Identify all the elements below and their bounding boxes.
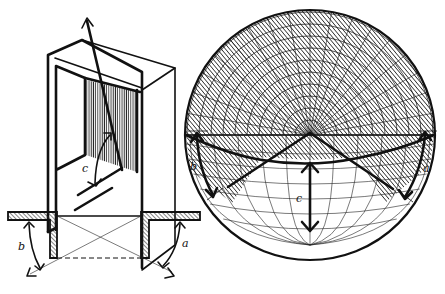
floor-line-front bbox=[75, 188, 112, 210]
floor-dot bbox=[111, 173, 113, 175]
plan-angle-b-arc bbox=[29, 224, 40, 268]
sphere-angle-b-label: b bbox=[190, 160, 197, 173]
diagram-canvas: c b a bbox=[0, 0, 445, 294]
sphere-angle-a-label: a bbox=[423, 162, 430, 175]
plan-angle-a-arc bbox=[163, 224, 180, 266]
sphere-angle-c-label: c bbox=[296, 192, 302, 205]
plan-diagonal-2 bbox=[30, 216, 141, 274]
plan-angle-b-label: b bbox=[18, 240, 25, 253]
sphere-projection: c b a bbox=[185, 10, 437, 260]
plan-angle-a-label: a bbox=[182, 237, 189, 250]
plan-left-sight-arrow bbox=[27, 268, 36, 276]
doorway-perspective: c bbox=[48, 18, 175, 270]
doorway-angle-label: c bbox=[82, 162, 88, 175]
plan-view: b a bbox=[8, 212, 200, 278]
plan-right-wall bbox=[141, 212, 200, 258]
plan-diagonal-1 bbox=[57, 216, 172, 272]
